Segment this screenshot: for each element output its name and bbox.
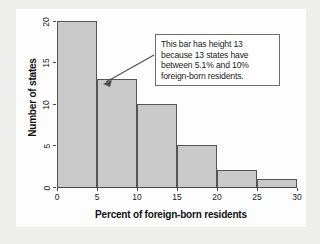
callout-line-3: between 5.1% and 10% [161,60,275,71]
callout-line-4: foreign-born residents. [161,71,275,82]
bar-height-callout: This bar has height 13 because 13 states… [155,34,280,86]
chart-page: Number of states 0 5 10 15 20 0 5 10 15 … [0,0,320,244]
histogram-figure: Number of states 0 5 10 15 20 0 5 10 15 … [0,0,320,244]
callout-line-2: because 13 states have [161,50,275,61]
callout-line-1: This bar has height 13 [161,39,275,50]
